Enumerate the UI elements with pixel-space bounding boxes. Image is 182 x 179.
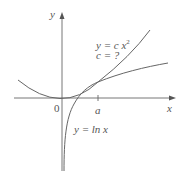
parabola-curve — [18, 30, 150, 99]
y-axis-arrow-icon — [60, 12, 65, 19]
parabola-c-question: c = ? — [96, 50, 119, 61]
x-axis-label: x — [167, 103, 172, 114]
log-curve — [64, 63, 168, 171]
origin-label: 0 — [54, 103, 60, 114]
x-axis-arrow-icon — [169, 96, 176, 101]
y-axis-label: y — [50, 9, 55, 20]
diagram-canvas — [0, 0, 182, 179]
log-equation: y = ln x — [74, 124, 108, 135]
parabola-exponent: 2 — [126, 38, 130, 46]
tick-a-label: a — [95, 105, 101, 116]
tangent-curves-diagram: y x 0 a y = c x2 c = ? y = ln x — [0, 0, 182, 179]
